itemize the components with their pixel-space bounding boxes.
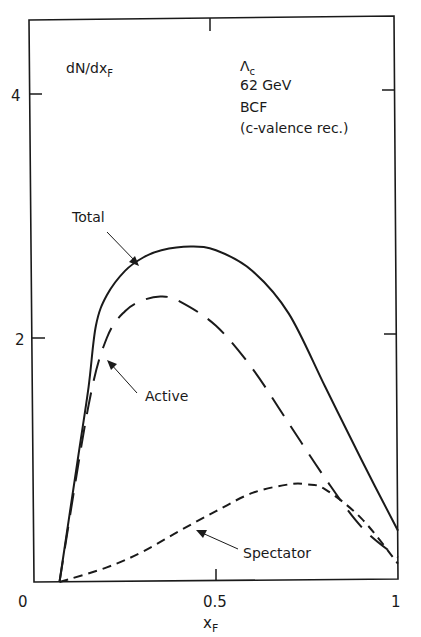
x-tick-label-1: 1 [391, 593, 401, 611]
spectator-arrow-line [200, 532, 238, 549]
model-label: BCF [240, 99, 267, 115]
chart: 4 2 0 0.5 1 xF dN/dxF Λc 62 GeV BCF (c-v… [0, 0, 421, 637]
plot-frame [29, 16, 398, 582]
active-curve [60, 296, 399, 582]
total-curve [60, 246, 399, 582]
x-tick-label-0: 0 [18, 593, 28, 611]
note-label: (c-valence rec.) [240, 120, 349, 136]
energy-label: 62 GeV [240, 77, 292, 93]
y-tick-label-2: 2 [15, 331, 25, 349]
total-arrow-line [107, 232, 137, 263]
x-tick-label-0.5: 0.5 [203, 593, 227, 611]
total-label: Total [71, 209, 105, 225]
spectator-label: Spectator [243, 545, 311, 561]
spectator-curve [60, 484, 399, 582]
x-axis-label: xF [203, 614, 218, 635]
y-tick-label-4: 4 [11, 87, 21, 105]
y-axis-label: dN/dxF [66, 60, 113, 79]
particle-label: Λc [240, 58, 255, 77]
active-label: Active [145, 388, 188, 404]
active-arrow-line [110, 363, 137, 393]
